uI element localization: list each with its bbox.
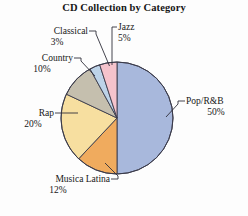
pie-label-country-value: 10%	[11, 64, 73, 75]
pie-slice-group	[61, 62, 173, 174]
pie-label-musica-latina-value: 12%	[6, 185, 110, 196]
pie-label-country: Country 10%	[11, 53, 73, 74]
chart-canvas: CD Collection by Category Classical 3% J…	[0, 0, 248, 216]
pie-label-classical-value: 3%	[26, 37, 88, 48]
pie-label-jazz-name: Jazz	[118, 22, 134, 32]
pie-label-pop-rnb: Pop/R&B 50%	[186, 96, 246, 117]
pie-label-jazz-value: 5%	[118, 33, 158, 44]
pie-label-classical: Classical 3%	[26, 26, 88, 47]
pie-label-rap-name: Rap	[39, 108, 54, 118]
pie-label-jazz: Jazz 5%	[118, 22, 158, 43]
pie-label-rap-value: 20%	[12, 119, 54, 130]
pie-label-pop-rnb-name: Pop/R&B	[186, 96, 224, 106]
pie-slice-pop-r-b[interactable]	[117, 62, 173, 174]
pie-label-country-name: Country	[42, 53, 73, 63]
pie-label-rap: Rap 20%	[12, 108, 54, 129]
pie-label-classical-name: Classical	[54, 26, 88, 36]
leader-line-classical	[89, 31, 110, 66]
pie-label-musica-latina-name: Musica Latina	[55, 174, 110, 184]
pie-label-musica-latina: Musica Latina 12%	[6, 174, 110, 195]
pie-label-pop-rnb-value: 50%	[186, 107, 246, 118]
leader-line-jazz	[112, 27, 117, 65]
